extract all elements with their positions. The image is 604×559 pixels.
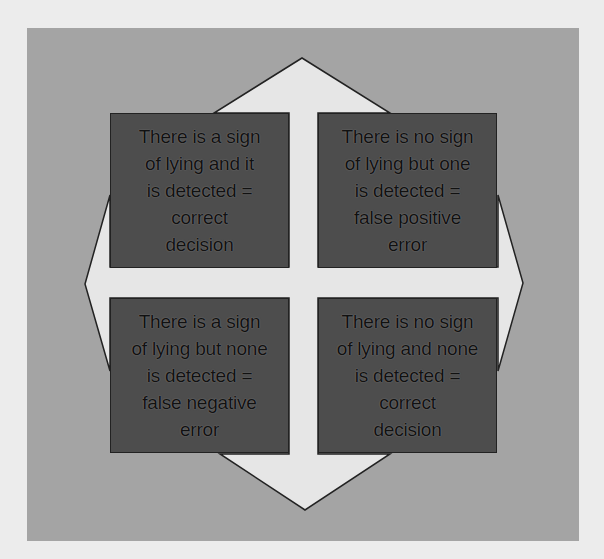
- quadrant-true-negative: There is no sign of lying and none is de…: [318, 298, 497, 453]
- quadrant-true-positive: There is a sign of lying and it is detec…: [110, 113, 289, 268]
- quadrant-text: There is no sign of lying and none is de…: [331, 308, 484, 443]
- quadrant-text: There is a sign of lying and it is detec…: [133, 123, 267, 258]
- quadrant-false-positive: There is no sign of lying but one is det…: [318, 113, 497, 268]
- four-way-arrow-icon: [0, 0, 604, 559]
- quadrant-false-negative: There is a sign of lying but none is det…: [110, 298, 289, 453]
- quadrant-text: There is a sign of lying but none is det…: [125, 308, 273, 443]
- quadrant-text: There is no sign of lying but one is det…: [336, 123, 480, 258]
